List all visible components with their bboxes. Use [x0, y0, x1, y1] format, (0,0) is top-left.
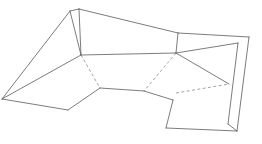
wireframe-polygon-drawing	[0, 0, 262, 144]
diagram-canvas	[0, 0, 262, 144]
